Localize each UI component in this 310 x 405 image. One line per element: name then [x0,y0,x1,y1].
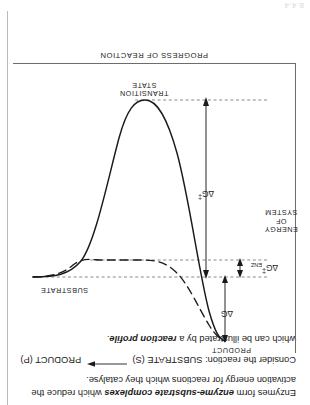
paragraph-enzyme-complexes: Enzymes form enzyme-substrate complexes … [12,373,296,399]
y-axis-label-line1: ENERGY [259,225,303,233]
annotation-arrow-delta-g-enz [237,258,243,278]
curve-enzyme-catalysed [33,259,225,341]
delta-g-uncat-superscript: ‡ [198,194,202,201]
y-axis-label-line2: OF [259,216,303,224]
label-delta-g-uncatalysed: ΔG‡ [198,189,214,201]
paragraph-1-before: Enzymes form [234,388,296,398]
reaction-profile-figure: ΔG ΔG‡ENZ ΔG‡ PRODUCT SUBSTRATE TRANSITI… [13,63,296,353]
reaction-reactant: SUBSTRATE (S) [132,355,202,365]
reaction-lead-in: Consider the reaction: [205,355,296,365]
y-axis-label-line3: SYSTEM [259,208,303,216]
y-axis-label: ENERGY OF SYSTEM [259,208,303,233]
label-substrate: SUBSTRATE [40,286,88,294]
x-axis-label: PROGRESS OF REACTION [13,51,295,60]
label-product: PRODUCT [212,346,251,354]
delta-g-uncat-symbol: ΔG [202,189,214,199]
printed-page: 8.4.4 Enzymes form enzyme-substrate comp… [0,0,310,405]
reaction-equation: Consider the reaction: SUBSTRATE (S) PRO… [12,352,296,365]
right-arrow-icon [86,360,128,369]
delta-g-enz-symbol: ΔG [266,263,278,273]
annotation-arrow-delta-g-uncatalysed [203,97,209,279]
curve-uncatalysed [33,100,225,341]
label-delta-g: ΔG [221,309,233,319]
cropped-header-text: 8.4.4 [6,1,304,10]
delta-g-enz-superscript: ‡ [262,268,266,275]
reaction-profile-svg [12,63,295,353]
label-transition-state: TRANSITION STATE [106,80,182,97]
delta-g-symbol: ΔG [221,309,233,319]
label-transition-state-line2: STATE [106,80,182,88]
reaction-profile-plot [12,63,295,353]
reaction-product: PRODUCT (P) [20,355,81,365]
term-enzyme-substrate-complexes: enzyme-substrate complexes [104,388,234,398]
delta-g-enz-subscript: ENZ [251,262,262,268]
page-margin-rule [7,11,8,405]
label-delta-g-enz: ΔG‡ENZ [251,262,278,275]
label-transition-state-line1: TRANSITION [106,89,182,97]
